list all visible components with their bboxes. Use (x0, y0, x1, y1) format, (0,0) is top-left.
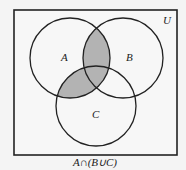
caption: A∩(B∪C) (72, 156, 117, 169)
set-b-label: B (126, 51, 133, 63)
set-c-label: C (92, 108, 100, 120)
set-a-label: A (60, 51, 68, 63)
universe-label: U (163, 14, 172, 26)
venn-diagram: A B C U A∩(B∪C) (0, 0, 186, 170)
